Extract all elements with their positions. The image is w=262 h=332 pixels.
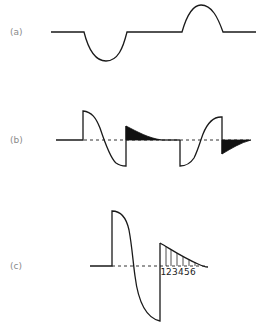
panel-c: (c) 1 2 3 4 5 6: [10, 211, 208, 321]
segment-number: 3: [172, 267, 178, 277]
panel-c-segment-numbers: 1 2 3 4 5 6: [161, 267, 197, 277]
panel-b-pulse-2: [180, 117, 222, 166]
segment-number: 5: [184, 267, 190, 277]
panel-b-pulse-1: [56, 111, 126, 166]
panel-c-label: (c): [10, 261, 22, 271]
panel-a: (a): [10, 5, 256, 61]
segment-number: 2: [166, 267, 172, 277]
waveform-diagram: (a) (b) (c) 1 2 3 4 5: [0, 0, 262, 332]
panel-b-label: (b): [10, 135, 23, 145]
panel-c-decay-curve: [160, 243, 208, 267]
panel-b-decay-fill-1: [126, 126, 162, 140]
segment-number: 6: [190, 267, 196, 277]
panel-b-decay-fill-2: [222, 140, 251, 154]
panel-a-waveform: [51, 5, 256, 61]
panel-b: (b): [10, 111, 252, 166]
panel-a-label: (a): [10, 27, 23, 37]
